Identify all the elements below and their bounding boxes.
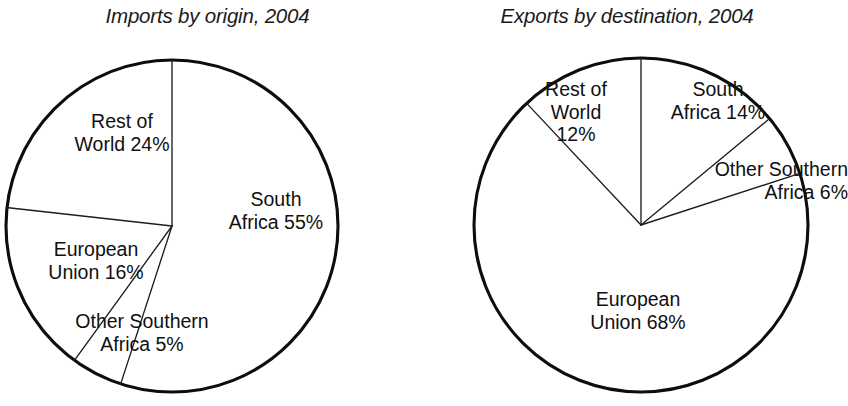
exports-label-south-africa: South Africa 14% (645, 78, 791, 123)
exports-chart-title: Exports by destination, 2004 (437, 4, 817, 28)
exports-label-rest-of-world-line1: Rest of (528, 78, 624, 101)
imports-chart-title: Imports by origin, 2004 (0, 4, 415, 28)
exports-label-other-southern-africa-line1: Other Southern (672, 158, 848, 181)
imports-label-rest-of-world-line2: World 24% (46, 133, 198, 156)
exports-label-south-africa-line2: Africa 14% (645, 101, 791, 124)
imports-label-european-union-line2: Union 16% (14, 261, 178, 284)
exports-label-other-southern-africa: Other Southern Africa 6% (672, 158, 848, 203)
imports-label-south-africa-line2: Africa 55% (192, 211, 360, 234)
exports-label-european-union-line2: Union 68% (540, 311, 736, 334)
imports-label-south-africa-line1: South (192, 188, 360, 211)
imports-label-rest-of-world: Rest of World 24% (46, 110, 198, 155)
exports-label-european-union: European Union 68% (540, 288, 736, 333)
imports-label-european-union: European Union 16% (14, 238, 178, 283)
imports-label-south-africa: South Africa 55% (192, 188, 360, 233)
imports-label-other-southern-africa: Other Southern Africa 5% (42, 310, 242, 355)
exports-label-other-southern-africa-line2: Africa 6% (672, 181, 848, 204)
exports-label-rest-of-world: Rest of World 12% (528, 78, 624, 146)
imports-label-other-southern-africa-line2: Africa 5% (42, 333, 242, 356)
exports-label-european-union-line1: European (540, 288, 736, 311)
imports-label-rest-of-world-line1: Rest of (46, 110, 198, 133)
imports-label-other-southern-africa-line1: Other Southern (42, 310, 242, 333)
exports-label-south-africa-line1: South (645, 78, 791, 101)
exports-label-rest-of-world-line2: World (528, 101, 624, 124)
exports-label-rest-of-world-line3: 12% (528, 123, 624, 146)
imports-label-european-union-line1: European (14, 238, 178, 261)
